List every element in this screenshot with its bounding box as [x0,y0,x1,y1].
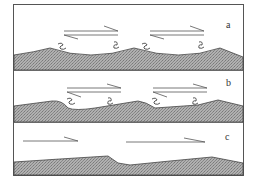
bedform-diagram: a b [0,0,253,190]
panel-a-sediment [14,48,243,70]
panel-c-label: c [225,131,230,142]
figure-frame [14,5,244,176]
panel-a-label: a [226,19,231,30]
panel-b-sediment [14,100,243,122]
panel-b-label: b [226,77,231,88]
